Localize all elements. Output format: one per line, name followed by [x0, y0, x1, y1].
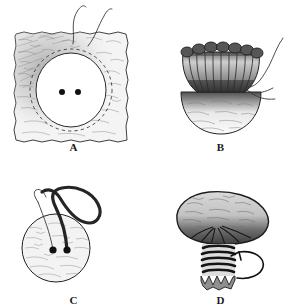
button-hole-left — [49, 246, 56, 253]
button-hole-left — [59, 89, 65, 95]
button-hole-right — [75, 89, 81, 95]
panel-d-illustration — [147, 154, 294, 308]
panel-a: A — [0, 0, 147, 154]
panel-a-label: A — [0, 141, 147, 153]
button-cap — [177, 192, 269, 245]
gathered-dome — [181, 92, 261, 134]
panel-c-illustration — [0, 154, 147, 308]
figure-container: A — [0, 0, 294, 308]
panel-b: B — [147, 0, 294, 154]
panel-d: D — [147, 154, 294, 308]
covered-button-disc — [22, 214, 91, 282]
panel-c-label: C — [0, 294, 147, 306]
button-outline — [36, 53, 106, 127]
shank-frayed-edge — [201, 276, 235, 290]
panel-b-label: B — [147, 141, 294, 153]
panel-a-illustration — [0, 0, 147, 154]
panel-c: C — [0, 154, 147, 308]
button-hole-right — [63, 246, 70, 253]
button-shank — [201, 244, 235, 290]
panel-b-illustration — [147, 0, 294, 154]
panel-d-label: D — [147, 294, 294, 306]
